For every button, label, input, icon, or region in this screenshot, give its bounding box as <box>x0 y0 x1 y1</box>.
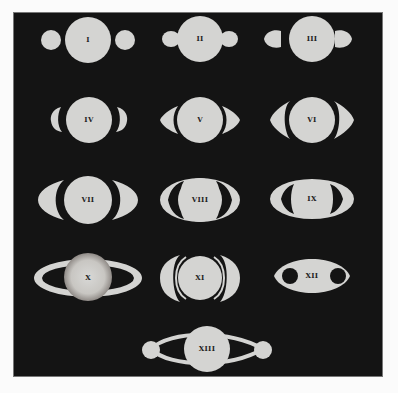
figure-v: V <box>160 97 240 143</box>
figure-label: I <box>86 35 90 44</box>
figure-label: VII <box>81 195 95 204</box>
figure-iv: IV <box>51 97 127 143</box>
figure-label: XII <box>306 271 319 280</box>
figure-label: XI <box>195 273 204 282</box>
figure-label: II <box>196 34 203 43</box>
figure-vi: VI <box>270 97 354 143</box>
figure-xiii: XIII <box>142 326 272 372</box>
figure-xi: XI <box>160 255 240 302</box>
figure-label: IV <box>84 115 94 124</box>
figure-ii: II <box>162 16 238 62</box>
figure-label: VIII <box>191 195 208 204</box>
figure-label: IX <box>307 194 317 203</box>
figure-vii: VII <box>38 176 138 224</box>
figure-label: X <box>85 273 91 282</box>
figure-label: XIII <box>199 344 215 353</box>
figure-label: III <box>307 34 318 43</box>
saturn-figures: I II III IV V <box>0 0 398 393</box>
figure-viii: VIII <box>160 178 240 222</box>
figure-x: X <box>34 253 142 301</box>
figure-label: VI <box>306 115 316 124</box>
figure-xii: XII <box>274 259 350 293</box>
figure-iii: III <box>264 16 352 62</box>
figure-ix: IX <box>270 179 354 219</box>
figure-i: I <box>41 17 135 63</box>
figure-label: V <box>196 115 203 124</box>
